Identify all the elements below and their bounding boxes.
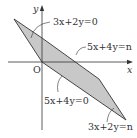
x-axis-label: x [127, 64, 133, 75]
label-5x4yn: 5x+4y=n [87, 41, 132, 52]
leader-5x4yn [76, 47, 86, 55]
diagram-canvas: y x O 3x+2y=0 5x+4y=n 5x+4y=0 3x+2y=n [0, 0, 137, 138]
y-axis-arrow-icon [40, 5, 44, 11]
y-axis-label: y [32, 3, 39, 14]
origin-label: O [33, 64, 41, 75]
label-3x2y0: 3x+2y=0 [53, 16, 98, 27]
label-5x4y0: 5x+4y=0 [44, 95, 89, 106]
leader-5x4y0 [58, 76, 63, 92]
label-3x2yn: 3x+2y=n [88, 121, 133, 132]
